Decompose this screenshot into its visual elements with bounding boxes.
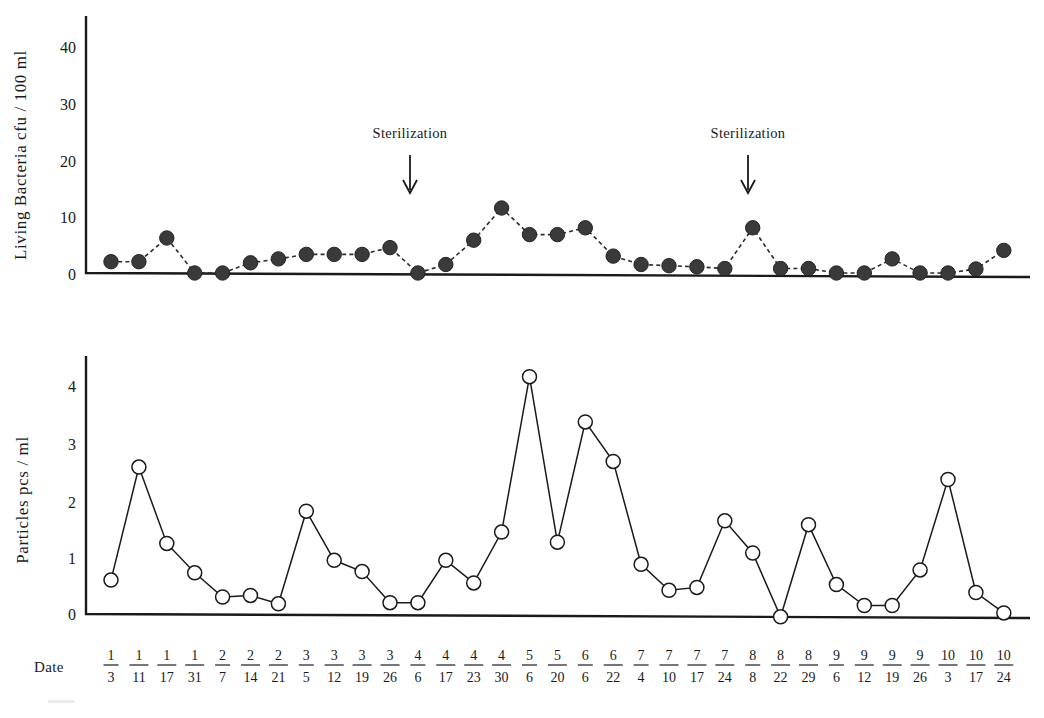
date-day: 17 [439,670,453,685]
data-point [132,460,146,474]
date-day: 3 [945,670,952,685]
down-arrow-icon [403,155,417,193]
date-day: 3 [108,670,115,685]
sterilization-label-1: Sterilization [373,125,448,141]
date-tick-label: 131 [185,648,204,685]
date-month: 1 [191,648,198,663]
date-day: 22 [774,670,788,685]
down-arrow-icon [741,155,755,193]
data-point [327,553,341,567]
figure-root: Living Bacteria cfu / 100 ml 40 30 20 10… [0,0,1044,718]
data-point [523,370,537,384]
date-tick-label: 926 [911,648,930,685]
data-point [801,261,815,275]
figure-canvas: Living Bacteria cfu / 100 ml 40 30 20 10… [0,0,1044,718]
data-point [662,583,676,597]
date-month: 9 [889,648,896,663]
date-month: 7 [638,648,645,663]
date-tick-label: 214 [241,648,260,685]
data-point [160,536,174,550]
data-point [355,247,369,261]
date-month: 1 [163,648,170,663]
y-tick-1: 1 [68,550,76,567]
y-tick-3: 3 [68,436,76,453]
data-point [271,597,285,611]
chart-particles: Particles pcs / ml 4 3 2 1 0 [13,356,1030,624]
date-day: 17 [690,670,704,685]
y-ticks-bacteria: 40 30 20 10 0 [60,39,76,283]
data-point [997,606,1011,620]
date-month: 8 [749,648,756,663]
data-point [829,266,843,280]
date-tick-label: 13 [104,648,119,685]
data-point [439,257,453,271]
data-point [969,586,983,600]
data-point [773,261,787,275]
date-tick-label: 326 [381,648,400,685]
series-line-particles [111,377,1004,617]
date-tick-label: 88 [745,648,760,685]
data-point [690,580,704,594]
date-day: 19 [885,670,899,685]
date-month: 9 [861,648,868,663]
data-point [690,260,704,274]
date-month: 3 [387,648,394,663]
date-month: 3 [303,648,310,663]
date-day: 6 [833,670,840,685]
date-tick-label: 622 [604,648,623,685]
data-point [746,546,760,560]
date-month: 10 [997,648,1011,663]
date-tick-label: 423 [464,648,483,685]
chart-living-bacteria: Living Bacteria cfu / 100 ml 40 30 20 10… [11,16,1030,283]
data-point [188,566,202,580]
date-month: 8 [805,648,812,663]
date-tick-label: 912 [855,648,874,685]
date-tick-label: 66 [578,648,593,685]
date-tick-label: 35 [299,648,314,685]
sterilization-label-2: Sterilization [711,125,786,141]
date-day: 6 [526,670,533,685]
data-point [244,588,258,602]
axes-particles [86,356,1030,618]
data-point [439,553,453,567]
y-tick-2: 2 [68,494,76,511]
data-point [746,221,760,235]
date-month: 7 [721,648,728,663]
date-day: 17 [160,670,174,685]
date-month: 5 [554,648,561,663]
data-point [913,563,927,577]
date-tick-label: 111 [129,648,148,685]
date-month: 4 [414,648,421,663]
x-axis-dates: Date 13111117131272142213531231932646417… [34,648,1013,685]
data-point [718,514,732,528]
date-day: 26 [913,670,927,685]
data-point [913,266,927,280]
y-ticks-particles: 4 3 2 1 0 [68,378,76,623]
data-point [550,227,564,241]
data-point [885,599,899,613]
y-tick-10: 10 [60,209,76,226]
date-day: 14 [244,670,258,685]
date-day: 19 [355,670,369,685]
date-tick-label: 1017 [966,648,985,685]
date-tick-label: 27 [215,648,230,685]
date-day: 12 [857,670,871,685]
y-axis-label-particles: Particles pcs / ml [13,436,32,563]
data-point [132,255,146,269]
date-tick-label: 312 [325,648,344,685]
data-point [104,573,118,587]
data-point [969,262,983,276]
data-point [941,266,955,280]
data-point [188,266,202,280]
y-tick-20: 20 [60,153,76,170]
data-point [104,255,118,269]
date-day: 24 [997,670,1011,685]
date-tick-label: 1024 [994,648,1013,685]
data-point [774,610,788,624]
date-day: 6 [582,670,589,685]
date-tick-label: 319 [353,648,372,685]
data-point [550,535,564,549]
data-point [634,257,648,271]
date-month: 1 [135,648,142,663]
data-point [662,259,676,273]
